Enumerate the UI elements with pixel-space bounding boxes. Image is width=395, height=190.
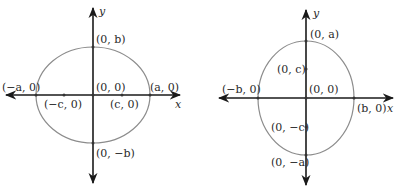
center-label: (0, 0) [309, 83, 339, 96]
vertical-ellipse-diagram: y x (0, a) (0, −a) (−b, 0) (b, 0) (0, 0)… [219, 7, 394, 185]
left-vertex-label: (−b, 0) [222, 83, 261, 96]
x-axis-label: x [387, 102, 394, 115]
ellipse-diagrams: y x (0, b) (0, −b) (−a, 0) (a, 0) (0, 0)… [0, 0, 395, 190]
left-vertex-label: (−a, 0) [2, 81, 40, 94]
top-focus-label: (0, c) [277, 63, 306, 76]
y-axis-label: y [312, 7, 320, 20]
bottom-focus-label: (0, −c) [271, 121, 309, 134]
left-focus-label: (−c, 0) [44, 98, 82, 111]
horizontal-ellipse-diagram: y x (0, b) (0, −b) (−a, 0) (a, 0) (0, 0)… [2, 5, 182, 183]
bottom-vertex-label: (0, −a) [271, 156, 309, 169]
right-vertex-label: (a, 0) [150, 81, 179, 94]
right-vertex-label: (b, 0) [357, 102, 387, 115]
x-axis-label: x [175, 98, 182, 111]
y-axis-label: y [98, 5, 106, 18]
bottom-vertex-label: (0, −b) [96, 147, 135, 160]
top-vertex-label: (0, a) [310, 28, 339, 41]
top-vertex-label: (0, b) [96, 33, 126, 46]
center-label: (0, 0) [96, 81, 126, 94]
right-focus-label: (c, 0) [110, 98, 139, 111]
